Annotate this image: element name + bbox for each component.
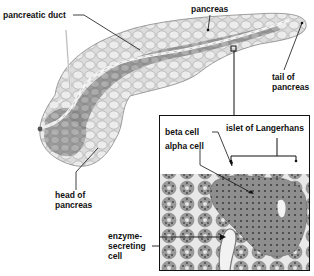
label-enzyme-line1: enzyme- xyxy=(108,231,146,241)
label-pancreatic-duct: pancreatic duct xyxy=(3,10,66,20)
label-head-line1: head of xyxy=(55,190,92,200)
label-enzyme-line2: secreting xyxy=(108,241,146,251)
label-head-of-pancreas: head of pancreas xyxy=(55,190,92,210)
label-alpha-cell: alpha cell xyxy=(165,141,204,151)
label-head-line2: pancreas xyxy=(55,200,92,210)
label-islet-of-langerhans: islet of Langerhans xyxy=(226,123,304,133)
islet-inset-panel xyxy=(159,115,310,271)
label-tail-line2: pancreas xyxy=(272,82,309,92)
label-pancreas: pancreas xyxy=(191,4,228,14)
label-enzyme-line3: cell xyxy=(108,251,146,261)
label-beta-cell: beta cell xyxy=(165,127,199,137)
label-tail-line1: tail of xyxy=(272,72,309,82)
label-tail-of-pancreas: tail of pancreas xyxy=(272,72,309,92)
label-enzyme-secreting-cell: enzyme- secreting cell xyxy=(108,231,146,261)
islet-tissue-illustration xyxy=(160,116,310,271)
